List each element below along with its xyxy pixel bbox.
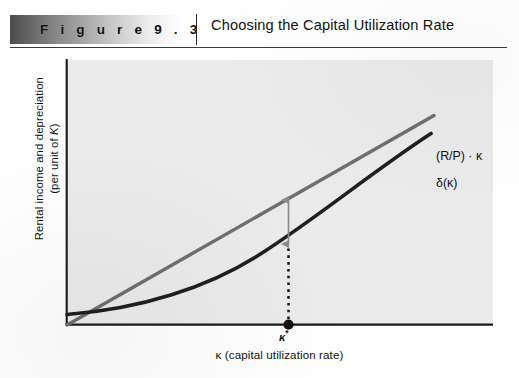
x-axis-title: κ (capital utilization rate): [66, 348, 493, 361]
y-axis-title-line2-suffix: ): [48, 123, 60, 127]
depreciation-curve: [67, 134, 431, 315]
rental-income-line-label: (R/P) · κ: [436, 149, 482, 163]
y-axis-title-line1: Rental income and depreciation: [33, 77, 45, 240]
figure-header: F i g u r e 9 . 3 Choosing the Capital U…: [0, 0, 519, 48]
figure-title: Choosing the Capital Utilization Rate: [211, 17, 454, 33]
kappa-star-axis-label: κ*: [279, 328, 289, 343]
figure-number-label: F i g u r e 9 . 3: [40, 22, 201, 37]
header-divider: [196, 14, 197, 45]
kappa-star-asterisk: *: [285, 328, 288, 338]
chart-area: Rental income and depreciation (per unit…: [0, 48, 519, 378]
depreciation-curve-label: δ(κ): [436, 176, 457, 190]
rental-income-line: [67, 116, 434, 326]
plot-svg: [0, 48, 519, 378]
y-axis-title-line2-variable: K: [48, 127, 60, 135]
figure-number-badge: F i g u r e 9 . 3: [10, 15, 193, 44]
y-axis-title: Rental income and depreciation (per unit…: [32, 44, 61, 274]
y-axis-title-line2-prefix: (per unit of: [48, 135, 60, 194]
